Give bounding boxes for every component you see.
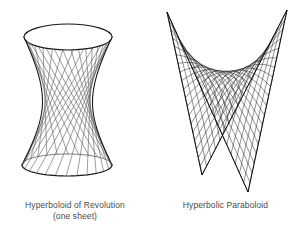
paraboloid-mesh-u-lines [167,10,287,192]
hyperboloid-of-revolution-drawing [0,0,150,200]
paraboloid-caption: Hyperbolic Paraboloid [150,200,301,211]
hyperbolic-paraboloid-drawing [150,0,301,200]
figure-page: Hyperboloid of Revolution (one sheet) Hy… [0,0,301,243]
paraboloid-caption-line-1: Hyperbolic Paraboloid [150,200,301,211]
hyperboloid-caption-line-1: Hyperboloid of Revolution [0,200,150,211]
paraboloid-boundary-edges [167,10,287,192]
hyperboloid-caption: Hyperboloid of Revolution (one sheet) [0,200,150,222]
figure-hyperboloid-panel: Hyperboloid of Revolution (one sheet) [0,0,150,243]
figure-paraboloid-panel: Hyperbolic Paraboloid [150,0,301,243]
hyperboloid-geometry [22,24,112,176]
hyperbolic-paraboloid-geometry [167,10,287,192]
hyperboloid-top-rim-ellipse [24,24,112,50]
hyperboloid-caption-line-2: (one sheet) [0,211,150,222]
paraboloid-mesh-v-lines [167,10,287,192]
